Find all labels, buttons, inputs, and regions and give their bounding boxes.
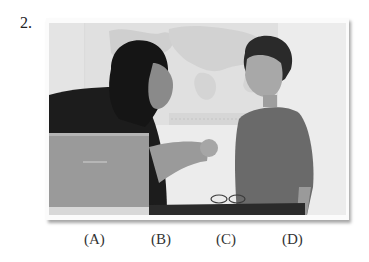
apple	[200, 139, 218, 157]
laptop	[49, 133, 159, 215]
choice-a[interactable]: (A)	[84, 230, 105, 248]
question-photo	[49, 23, 346, 215]
answer-choices: (A) (B) (C) (D)	[0, 230, 369, 252]
choice-b[interactable]: (B)	[151, 230, 171, 248]
choice-d[interactable]: (D)	[282, 230, 303, 248]
choice-c[interactable]: (C)	[216, 230, 236, 248]
question-number: 2.	[20, 14, 32, 32]
photo-frame	[46, 18, 349, 220]
desk	[149, 203, 305, 215]
